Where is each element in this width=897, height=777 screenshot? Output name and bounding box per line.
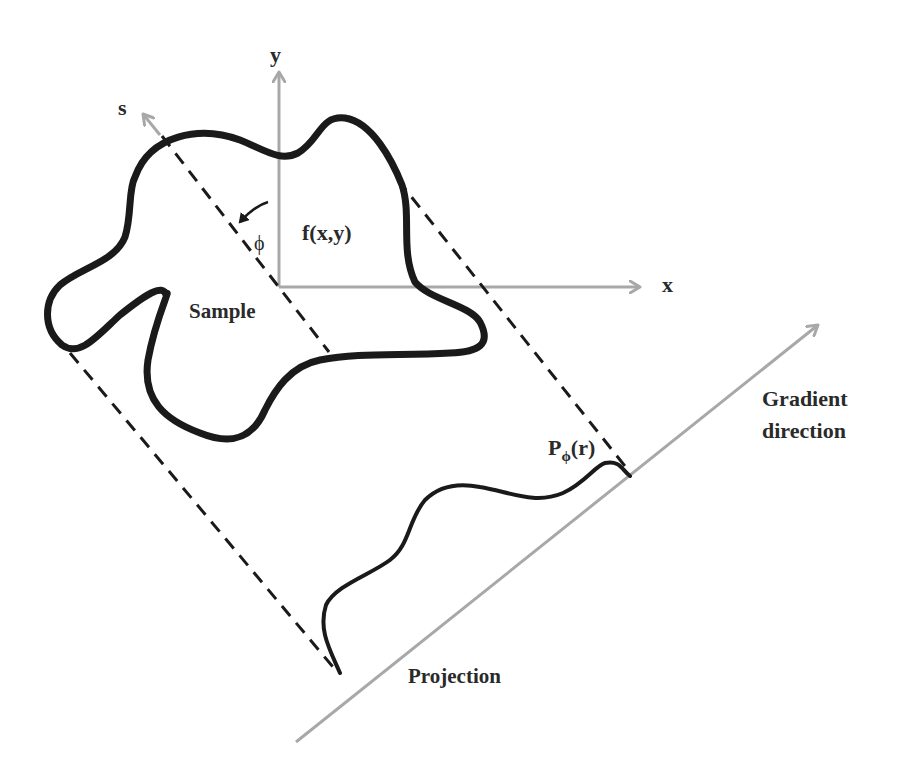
projection-function-main: P	[548, 435, 561, 460]
projection-function-sub: ϕ	[561, 448, 570, 464]
sample-label: Sample	[189, 301, 256, 322]
gradient-direction-label-line2: direction	[762, 420, 846, 442]
gradient-axis	[296, 325, 818, 742]
projection-label: Projection	[408, 666, 501, 687]
s-axis-label: s	[118, 97, 127, 119]
projection-function-arg: (r)	[571, 435, 595, 460]
x-axis-label: x	[662, 274, 673, 296]
s-axis-arrow	[143, 114, 160, 135]
left-projection-line	[70, 353, 338, 673]
angle-label: ϕ	[254, 233, 265, 253]
gradient-direction-label-line1: Gradient	[762, 388, 848, 410]
rotation-arrow	[240, 202, 268, 222]
y-axis-label: y	[270, 44, 281, 66]
function-label: f(x,y)	[302, 222, 351, 244]
projection-function-label: Pϕ(r)	[548, 437, 595, 459]
right-projection-line	[398, 180, 628, 470]
diagram-canvas: y x s ϕ f(x,y) Sample Pϕ(r) Projection G…	[0, 0, 897, 777]
projection-profile	[323, 462, 630, 673]
sample-outline	[48, 118, 485, 439]
